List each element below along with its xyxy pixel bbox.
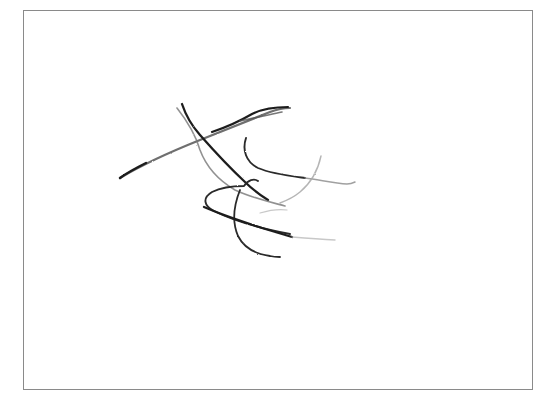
stroke-lower-long-tail [292,237,335,240]
stroke-descending-light [177,108,285,206]
stroke-long-diagonal-dark-start [120,163,146,178]
stroke-c-arc [245,138,306,178]
pencil-scribble [0,0,550,407]
stroke-vertical-curve [234,190,280,257]
stroke-long-diagonal [120,108,290,178]
stroke-loop [205,180,290,234]
drawing-canvas [0,0,550,407]
stroke-lower-long [204,207,292,237]
stroke-faint-center [260,210,287,213]
